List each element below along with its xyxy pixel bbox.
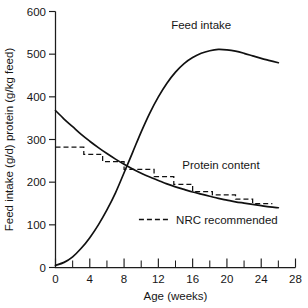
x-tick-label-20: 20 <box>221 273 234 285</box>
y-tick-label-400: 400 <box>27 91 46 103</box>
y-tick-label-100: 100 <box>27 219 46 231</box>
x-tick-label-8: 8 <box>121 273 127 285</box>
x-tick-label-4: 4 <box>87 273 94 285</box>
y-tick-label-200: 200 <box>27 176 46 188</box>
y-tick-label-600: 600 <box>27 6 46 18</box>
chart-figure: 0100200300400500600 0481216202428 Feed i… <box>0 0 308 308</box>
x-tick-label-12: 12 <box>152 273 165 285</box>
chart-canvas: 0100200300400500600 0481216202428 Feed i… <box>0 0 308 308</box>
y-axis-title: Feed intake (g/d) protein (g/kg feed) <box>3 48 15 232</box>
y-tick-label-300: 300 <box>27 134 46 146</box>
annotation-feed-intake: Feed intake <box>171 19 231 31</box>
x-tick-label-24: 24 <box>255 273 268 285</box>
annotation-protein-content: Protein content <box>182 159 260 171</box>
annotation-nrc-recommended: NRC recommended <box>176 214 278 226</box>
x-tick-label-28: 28 <box>289 273 302 285</box>
x-axis-title: Age (weeks) <box>144 290 208 302</box>
x-tick-label-16: 16 <box>186 273 199 285</box>
y-tick-label-500: 500 <box>27 48 46 60</box>
y-tick-label-0: 0 <box>40 262 46 274</box>
x-tick-label-0: 0 <box>52 273 58 285</box>
chart-background <box>0 0 308 308</box>
